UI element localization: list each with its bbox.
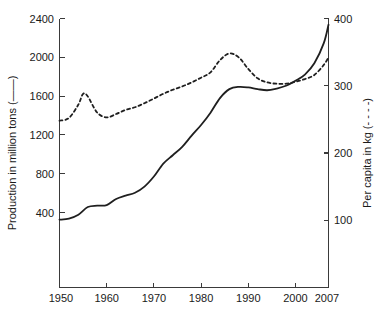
right-tick-label-200: 200 xyxy=(334,147,352,159)
x-tick-label-2000: 2000 xyxy=(283,292,307,304)
series-per-capita-line xyxy=(60,53,329,120)
dual-axis-line-chart: 2400 2000 1600 1200 800 400 400 300 200 … xyxy=(0,0,384,318)
x-tick-label-2007: 2007 xyxy=(315,292,339,304)
x-tick-label-1950: 1950 xyxy=(49,292,73,304)
chart-figure: 2400 2000 1600 1200 800 400 400 300 200 … xyxy=(0,0,384,318)
left-tick-label-2400: 2400 xyxy=(30,13,54,25)
x-tick-label-1970: 1970 xyxy=(142,292,166,304)
left-tick-label-400: 400 xyxy=(36,207,54,219)
series-group xyxy=(60,25,329,220)
right-axis-title: Per capita in kg (- - - -) xyxy=(361,98,373,208)
left-tick-label-1200: 1200 xyxy=(30,129,54,141)
plot-frame xyxy=(60,19,329,288)
left-tick-label-1600: 1600 xyxy=(30,90,54,102)
x-axis-ticks: 1950 1960 1970 1980 1990 2000 2007 xyxy=(49,283,339,305)
left-tick-label-800: 800 xyxy=(36,168,54,180)
right-tick-label-400: 400 xyxy=(334,13,352,25)
left-tick-label-2000: 2000 xyxy=(30,51,54,63)
x-tick-label-1990: 1990 xyxy=(236,292,260,304)
x-tick-label-1960: 1960 xyxy=(94,292,118,304)
right-axis-ticks: 400 300 200 100 xyxy=(324,13,353,227)
x-tick-label-1980: 1980 xyxy=(189,292,213,304)
right-tick-label-300: 300 xyxy=(334,80,352,92)
series-production-line xyxy=(60,25,329,220)
right-tick-label-100: 100 xyxy=(334,214,352,226)
left-axis-title: Production in million tons (——) xyxy=(6,76,18,231)
